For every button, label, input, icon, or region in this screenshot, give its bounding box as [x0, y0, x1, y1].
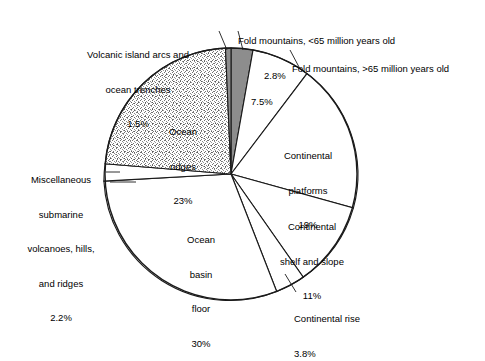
label-ocean-ridges: Ocean ridges 23%	[148, 103, 218, 230]
label-ocean-ridges-line2: ridges	[148, 161, 218, 173]
label-fold-mountains-old-line1: Fold mountains, >65 million years old	[292, 63, 482, 75]
label-continental-shelf-slope-line2: shelf and slope	[256, 256, 368, 268]
label-ocean-ridges-value: 23%	[148, 195, 218, 207]
label-volcanic-island-arcs-line1: Volcanic island arcs and	[68, 49, 208, 61]
label-fold-mountains-old-value: 7.5%	[251, 73, 291, 131]
label-misc-submarine-line1: Miscellaneous	[13, 174, 109, 186]
label-misc-submarine-value: 2.2%	[13, 312, 109, 324]
label-ocean-basin-floor-line2: basin	[166, 269, 236, 281]
label-continental-rise-line1: Continental rise	[294, 313, 414, 325]
label-fold-mountains-old-value-text: 7.5%	[251, 96, 291, 108]
label-misc-submarine-line3: volcanoes, hills,	[13, 243, 109, 255]
label-ocean-ridges-line1: Ocean	[148, 126, 218, 138]
label-ocean-basin-floor-line3: floor	[166, 303, 236, 315]
label-continental-shelf-slope-line1: Continental	[256, 221, 368, 233]
label-misc-submarine-line2: submarine	[13, 209, 109, 221]
label-ocean-basin-floor-line1: Ocean	[166, 234, 236, 246]
label-continental-platforms-line1: Continental	[255, 150, 361, 162]
label-continental-rise-value: 3.8%	[294, 348, 414, 360]
label-ocean-basin-floor-value: 30%	[166, 338, 236, 350]
label-ocean-basin-floor: Ocean basin floor 30%	[166, 211, 236, 361]
label-continental-platforms-line2: platforms	[255, 185, 361, 197]
label-continental-rise: Continental rise 3.8%	[294, 290, 414, 361]
label-misc-submarine-line4: and ridges	[13, 278, 109, 290]
label-misc-submarine-volcanoes: Miscellaneous submarine volcanoes, hills…	[13, 151, 109, 347]
label-volcanic-island-arcs-line2: ocean trenches	[68, 84, 208, 96]
leader-volcanic-island-arcs	[219, 31, 227, 50]
label-fold-mountains-old: Fold mountains, >65 million years old	[292, 40, 482, 98]
